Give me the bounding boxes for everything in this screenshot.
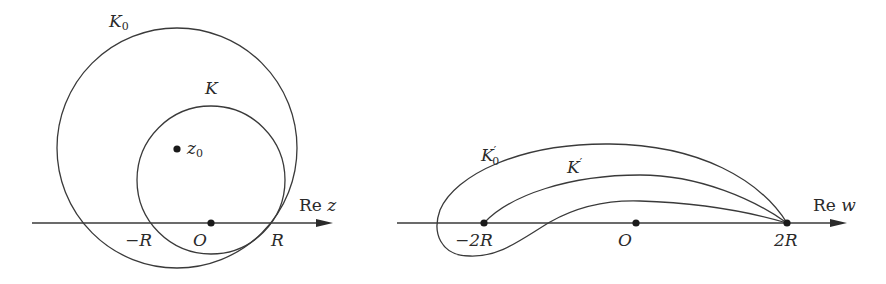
label-2R: 2R bbox=[774, 232, 798, 249]
label-Kprime: K′ bbox=[567, 157, 582, 176]
point-origin-z-dot bbox=[207, 219, 214, 226]
label-re-w: Re w bbox=[813, 197, 856, 214]
label-z0: z0 bbox=[187, 140, 203, 159]
label-re-w-var: w bbox=[841, 195, 856, 215]
label-K-main: K bbox=[205, 78, 218, 98]
label-K0: K0 bbox=[109, 13, 129, 32]
label-z0-subscript: 0 bbox=[196, 147, 203, 160]
label-origin-z: O bbox=[193, 232, 207, 249]
label-Kprime-main: K bbox=[567, 157, 580, 177]
label-re-w-prefix: Re bbox=[813, 195, 836, 215]
label-z0-main: z bbox=[187, 138, 196, 158]
point-minus-2R-dot bbox=[480, 219, 487, 226]
re-w-arrowhead-icon bbox=[830, 219, 847, 227]
label-re-z-prefix: Re bbox=[299, 195, 322, 215]
label-re-z-var: z bbox=[327, 195, 336, 215]
z-plane-panel bbox=[32, 28, 333, 268]
label-minus-R: −R bbox=[125, 232, 152, 249]
label-K: K bbox=[205, 80, 218, 97]
label-re-z: Re z bbox=[299, 197, 336, 214]
label-Kprime-prime: ′ bbox=[580, 156, 583, 169]
re-z-arrowhead-icon bbox=[316, 219, 333, 227]
point-z0-dot bbox=[173, 145, 180, 152]
label-K0-subscript: 0 bbox=[122, 20, 129, 33]
label-origin-w: O bbox=[618, 232, 632, 249]
curve-Kprime bbox=[484, 175, 787, 223]
label-R: R bbox=[271, 232, 284, 249]
label-K0prime: K′0 bbox=[481, 145, 503, 164]
label-K0prime-subscript: 0 bbox=[492, 155, 499, 168]
point-origin-w-dot bbox=[632, 219, 639, 226]
point-2R-dot bbox=[783, 219, 790, 226]
label-K0-main: K bbox=[109, 11, 122, 31]
conformal-map-figure: K0 K z0 −R O R Re z K′0 K′ −2R O 2R Re w bbox=[0, 0, 886, 284]
label-minus-2R: −2R bbox=[455, 232, 493, 249]
